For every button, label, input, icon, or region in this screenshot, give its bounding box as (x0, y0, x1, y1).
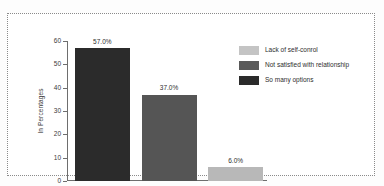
y-tick-mark (63, 134, 67, 135)
y-tick-label: 30 (54, 108, 61, 115)
y-axis-title: In Percentages (36, 41, 46, 181)
y-tick-label: 0 (57, 178, 61, 185)
legend-swatch (239, 61, 259, 70)
plot-area: 0102030405060 57.0%37.0%6.0% (67, 41, 267, 181)
y-tick-label: 40 (54, 84, 61, 91)
bar: 37.0% (142, 95, 197, 181)
legend-label: So many options (265, 77, 313, 84)
y-tick-label: 20 (54, 131, 61, 138)
legend-swatch (239, 46, 259, 55)
y-tick-mark (63, 181, 67, 182)
y-tick-label: 60 (54, 38, 61, 45)
y-tick-mark (63, 111, 67, 112)
y-tick-mark (63, 88, 67, 89)
y-tick-mark (63, 158, 67, 159)
legend-label: Not satisfied with relationship (265, 62, 349, 69)
y-tick-label: 10 (54, 154, 61, 161)
chart-frame: In Percentages 0102030405060 57.0%37.0%6… (7, 13, 375, 176)
y-tick-label: 50 (54, 61, 61, 68)
bar-value-label: 6.0% (228, 158, 243, 165)
chart-legend: Lack of self-conrolNot satisfied with re… (239, 43, 379, 88)
bar-value-label: 37.0% (160, 85, 178, 92)
y-tick-mark (63, 41, 67, 42)
chart-figure: In Percentages 0102030405060 57.0%37.0%6… (0, 0, 384, 186)
legend-item[interactable]: Lack of self-conrol (239, 43, 379, 57)
y-tick-mark (63, 64, 67, 65)
legend-swatch (239, 76, 259, 85)
legend-item[interactable]: So many options (239, 73, 379, 87)
legend-item[interactable]: Not satisfied with relationship (239, 58, 379, 72)
bar-value-label: 57.0% (93, 39, 111, 46)
bar: 6.0% (208, 167, 263, 181)
legend-label: Lack of self-conrol (265, 47, 318, 54)
bar: 57.0% (75, 48, 130, 181)
y-axis-line (67, 41, 68, 181)
